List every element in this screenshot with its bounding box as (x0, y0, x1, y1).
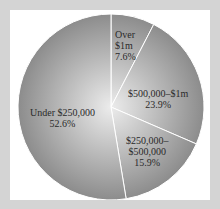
chart-panel: Over $1m 7.6% $500,000–$1m 23.9% $250,00… (10, 10, 210, 200)
slice-label-250k-500k: $250,000– $500,000 15.9% (126, 135, 169, 168)
slice-label-under-250k: Under $250,000 52.6% (30, 107, 95, 129)
slice-label-over-1m: Over $1m 7.6% (115, 29, 136, 62)
slice-label-500k-1m: $500,000–$1m 23.9% (128, 88, 188, 110)
